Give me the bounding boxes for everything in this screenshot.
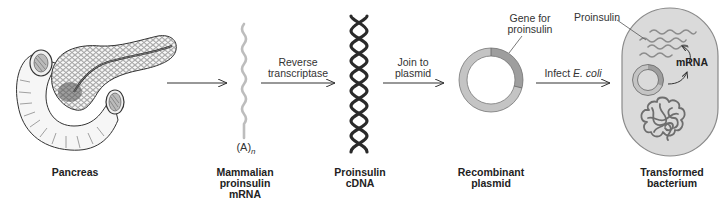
transformed-bacterium: [617, 8, 718, 156]
stage-label-line: cDNA: [320, 178, 400, 189]
callout-line: proinsulin: [500, 24, 560, 35]
stage-label-line: bacterium: [630, 178, 714, 189]
recombinant-plasmid: [459, 36, 523, 112]
gene-callout-leader: [509, 36, 522, 53]
callout-text: mRNA: [676, 56, 708, 68]
pancreas-illustration: [17, 36, 177, 151]
arrow-label-reverse-transcriptase: Reverse transcriptase: [261, 57, 335, 79]
proinsulin-callout: Proinsulin: [570, 12, 620, 23]
arrow-label-prefix: Infect: [544, 67, 573, 79]
arrow-label-line: plasmid: [383, 68, 443, 79]
poly-a-prefix: (A): [236, 141, 251, 153]
mrna-strand: [242, 24, 246, 138]
poly-a-tail-label: (A)n: [226, 142, 266, 157]
stage-label-bacterium: Transformed bacterium: [630, 167, 714, 189]
gene-for-proinsulin-callout: Gene for proinsulin: [500, 13, 560, 35]
arrow-label-organism: E. coli: [573, 67, 602, 79]
callout-text: Proinsulin: [574, 11, 620, 23]
cdna-double-helix: [351, 16, 367, 152]
arrow-label-line: transcriptase: [261, 68, 335, 79]
stage-label-line: Pancreas: [35, 167, 115, 178]
stage-label-line: mRNA: [205, 189, 285, 200]
stage-label-mrna: Mammalian proinsulin mRNA: [205, 167, 285, 200]
stage-label-line: plasmid: [450, 178, 532, 189]
poly-a-subscript: n: [251, 147, 255, 156]
insulin-cloning-diagram: Reverse transcriptase Join to plasmid In…: [0, 0, 726, 209]
stage-label-cdna: Proinsulin cDNA: [320, 167, 400, 189]
stage-label-pancreas: Pancreas: [35, 167, 115, 178]
stage-label-plasmid: Recombinant plasmid: [450, 167, 532, 189]
arrow-label-infect-ecoli: Infect E. coli: [536, 68, 610, 79]
mrna-callout: mRNA: [672, 57, 712, 68]
arrow-label-join-to-plasmid: Join to plasmid: [383, 57, 443, 79]
